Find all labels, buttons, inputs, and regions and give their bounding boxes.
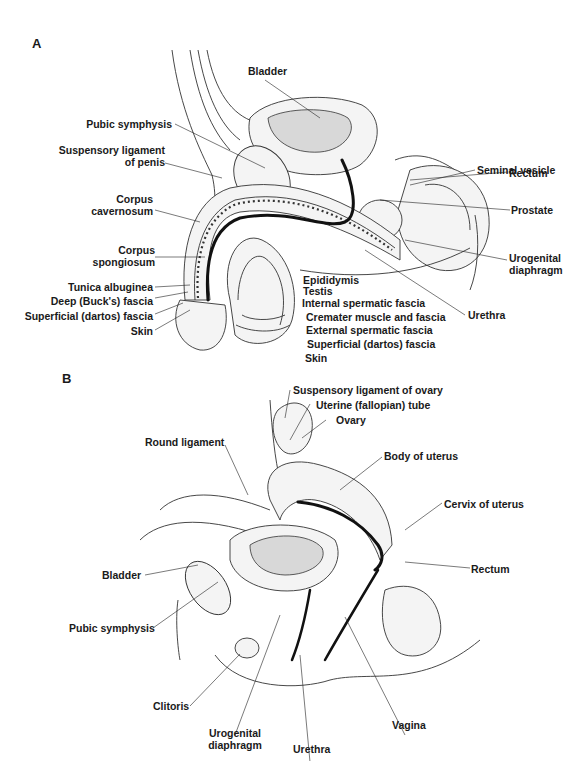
anatomy-illustration xyxy=(0,0,582,761)
label-cervix-of-uterus: Cervix of uterus xyxy=(444,498,524,510)
panel-a-letter: A xyxy=(32,36,41,51)
label-testis: Testis xyxy=(303,285,333,297)
label-body-of-uterus: Body of uterus xyxy=(384,450,458,462)
label-pubic-symphysis-male: Pubic symphysis xyxy=(60,118,172,130)
label-superficial-dartos-fascia-right: Superficial (dartos) fascia xyxy=(307,338,435,350)
label-cremater-muscle-fascia: Cremater muscle and fascia xyxy=(306,311,445,323)
label-bladder-female: Bladder xyxy=(102,569,141,581)
label-superficial-dartos-fascia-left: Superficial (dartos) fascia xyxy=(0,310,153,322)
label-ovary: Ovary xyxy=(336,414,366,426)
label-bladder-male: Bladder xyxy=(248,65,287,77)
label-suspensory-ligament-penis: Suspensory ligament of penis xyxy=(40,144,165,168)
label-urethra-male: Urethra xyxy=(468,309,505,321)
label-internal-spermatic-fascia: Internal spermatic fascia xyxy=(302,297,425,309)
label-round-ligament: Round ligament xyxy=(145,436,224,448)
label-rectum-female: Rectum xyxy=(471,563,510,575)
label-external-spermatic-fascia: External spermatic fascia xyxy=(306,324,433,336)
label-corpus-spongiosum: Corpus spongiosum xyxy=(60,244,155,268)
label-pubic-symphysis-female: Pubic symphysis xyxy=(69,622,155,634)
label-rectum-male: Rectum xyxy=(509,167,548,179)
label-skin-left: Skin xyxy=(100,325,153,337)
label-vagina: Vagina xyxy=(392,719,426,731)
label-tunica-albuginea: Tunica albuginea xyxy=(20,281,153,293)
label-skin-right: Skin xyxy=(305,352,327,364)
label-uterine-tube: Uterine (fallopian) tube xyxy=(316,399,430,411)
label-corpus-cavernosum: Corpus cavernosum xyxy=(60,193,153,217)
label-urogenital-diaphragm-male: Urogenital diaphragm xyxy=(509,252,563,276)
panel-b-letter: B xyxy=(62,371,71,386)
label-urogenital-diaphragm-female: Urogenital diaphragm xyxy=(200,727,270,751)
label-prostate: Prostate xyxy=(511,204,553,216)
label-clitoris: Clitoris xyxy=(153,700,189,712)
label-deep-bucks-fascia: Deep (Buck's) fascia xyxy=(20,295,153,307)
label-urethra-female: Urethra xyxy=(293,743,330,755)
label-suspensory-ligament-ovary: Suspensory ligament of ovary xyxy=(293,384,443,396)
